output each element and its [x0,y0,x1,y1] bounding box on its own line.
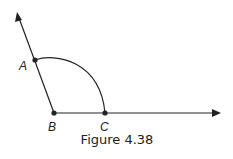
point-c [102,110,107,115]
arc-ac [35,58,105,113]
geometry-figure: A B C Figure 4.38 [0,0,233,159]
arrowhead-ray-ba [15,12,22,22]
label-a: A [18,59,27,73]
figure-caption: Figure 4.38 [81,132,154,147]
label-b: B [48,120,56,134]
arrowhead-ray-bc [212,109,221,117]
point-b [51,110,56,115]
point-a [32,57,37,62]
